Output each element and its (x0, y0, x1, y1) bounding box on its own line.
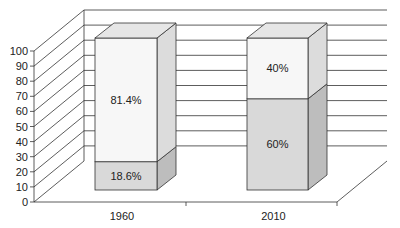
back-wall-gridlines (34, 10, 387, 187)
x-axis: 19602010 (110, 210, 286, 222)
y-tick-label: 70 (16, 90, 28, 102)
bar-segment-side (308, 84, 327, 190)
y-tick-label: 50 (16, 121, 28, 133)
side-wall-gridline (34, 40, 84, 81)
side-wall-gridline (34, 116, 84, 157)
y-tick-label: 100 (10, 45, 28, 57)
bar-1960: 18.6%81.4% (95, 23, 176, 190)
data-label: 40% (266, 62, 288, 74)
side-wall-gridline (34, 101, 84, 142)
floor-outline (34, 161, 387, 202)
bar-segment-side (157, 23, 176, 162)
y-tick-label: 20 (16, 166, 28, 178)
side-wall-gridline (34, 131, 84, 172)
side-wall-gridline (34, 25, 84, 66)
bars: 18.6%81.4%60%40% (95, 23, 327, 190)
y-axis: 0102030405060708090100 (10, 45, 34, 208)
data-label: 81.4% (110, 94, 141, 106)
x-tick-label: 2010 (261, 210, 285, 222)
x-tick-label: 1960 (110, 210, 134, 222)
floor (34, 161, 387, 206)
side-wall-gridline (34, 10, 84, 51)
side-wall-gridline (34, 70, 84, 111)
side-wall-gridline (34, 55, 84, 96)
data-label: 60% (266, 138, 288, 150)
y-tick-label: 80 (16, 75, 28, 87)
side-wall-gridline (34, 146, 84, 187)
stacked-bar-chart-3d: 0102030405060708090100 18.6%81.4%60%40% … (0, 0, 400, 228)
bar-2010: 60%40% (247, 23, 327, 190)
y-tick-label: 0 (22, 196, 28, 208)
y-tick-label: 30 (16, 151, 28, 163)
y-tick-label: 90 (16, 60, 28, 72)
data-label: 18.6% (110, 170, 141, 182)
side-wall-gridline (34, 86, 84, 127)
y-tick-label: 10 (16, 181, 28, 193)
y-tick-label: 40 (16, 136, 28, 148)
y-tick-label: 60 (16, 105, 28, 117)
